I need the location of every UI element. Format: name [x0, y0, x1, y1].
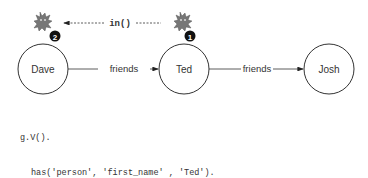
graph-diagram: Dave Ted Josh friends friends in() 2	[0, 0, 368, 110]
edge-label: friends	[243, 63, 272, 74]
svg-text:1: 1	[188, 33, 193, 42]
gremlin-icon	[34, 12, 52, 31]
edge-ted-josh: friends	[209, 63, 303, 74]
gremlin-icon	[174, 12, 192, 31]
traversal-in-arrow: in()	[64, 19, 161, 29]
edge-dave-ted: friends	[68, 63, 158, 74]
traversal-label: in()	[109, 19, 131, 29]
gremlin-code-block: g.V(). has('person', 'first_name' , 'Ted…	[20, 110, 215, 177]
code-line-2: has('person', 'first_name' , 'Ted').	[20, 168, 215, 178]
step-badge-1: 1	[185, 31, 196, 42]
node-ted-label: Ted	[176, 64, 192, 75]
code-line-1: g.V().	[20, 133, 215, 145]
node-dave: Dave	[18, 44, 68, 94]
svg-text:2: 2	[53, 33, 58, 42]
node-ted: Ted	[159, 44, 209, 94]
node-josh-label: Josh	[318, 64, 339, 75]
step-badge-2: 2	[50, 31, 61, 42]
node-dave-label: Dave	[31, 64, 55, 75]
edge-label: friends	[110, 63, 139, 74]
node-josh: Josh	[304, 44, 354, 94]
